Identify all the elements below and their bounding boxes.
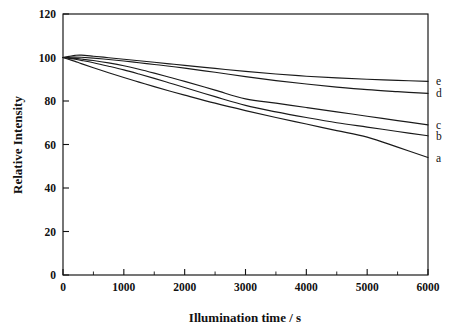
y-tick-label-20: 20 [45,226,57,238]
y-tick-label-40: 40 [45,182,57,194]
x-tick-label-4000: 4000 [295,281,318,293]
curve-b [63,58,428,136]
curve-c [63,58,428,125]
series-end-labels: abcde [436,75,442,163]
series-label-a: a [436,152,441,164]
y-tick-label-0: 0 [50,269,56,281]
chart-figure: 020406080100120 010002000300040005000600… [0,0,457,331]
x-tick-label-0: 0 [60,281,66,293]
x-tick-label-5000: 5000 [356,281,379,293]
x-axis-tick-labels: 0100020003000400050006000 [60,281,440,293]
x-axis-title: Illumination time / s [189,310,301,325]
y-axis-tick-labels: 020406080100120 [39,8,57,281]
data-curves [63,55,428,158]
curve-a [63,58,428,158]
series-label-b: b [436,130,442,142]
x-tick-label-3000: 3000 [234,281,257,293]
series-label-e: e [436,75,441,87]
x-tick-label-1000: 1000 [112,281,135,293]
plot-frame [63,14,428,275]
series-label-d: d [436,87,442,99]
y-tick-label-60: 60 [45,139,57,151]
x-tick-label-2000: 2000 [173,281,196,293]
y-tick-label-120: 120 [39,8,57,20]
intensity-decay-line-chart: 020406080100120 010002000300040005000600… [0,0,457,331]
y-tick-label-80: 80 [45,95,57,107]
y-axis-title: Relative Intensity [10,96,25,194]
series-label-c: c [436,119,441,131]
x-tick-label-6000: 6000 [417,281,440,293]
y-tick-label-100: 100 [39,52,57,64]
y-axis-ticks [63,14,69,275]
x-axis-ticks [63,269,428,275]
